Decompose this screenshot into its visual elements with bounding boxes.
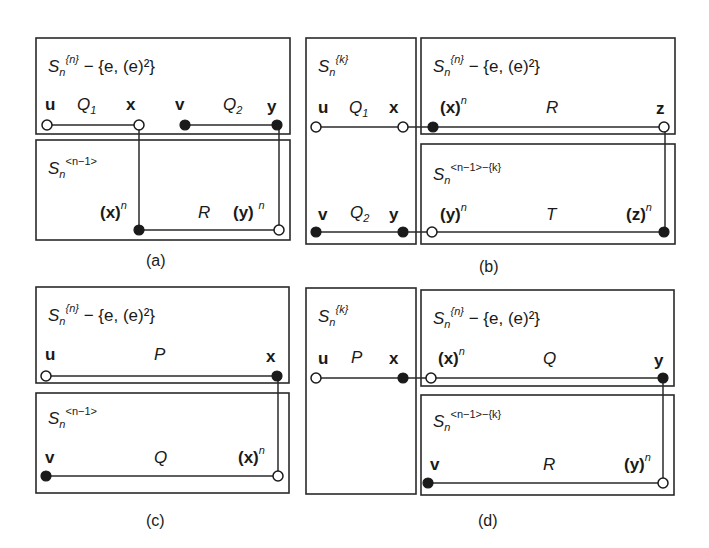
set-symbol: S (433, 57, 444, 76)
panel-a-label-v: v (175, 96, 184, 113)
panel-b-node-v (311, 227, 321, 237)
set-superscript: {n} (65, 302, 78, 314)
set-superscript: <n−1>−{k} (450, 408, 501, 420)
set-symbol: S (318, 57, 329, 76)
set-superscript: <n−1> (65, 405, 97, 417)
set-subscript: n (444, 174, 450, 186)
panel-b-node-y (398, 227, 408, 237)
panel-b-label-q2: Q2 (350, 204, 369, 221)
set-superscript: {n} (65, 53, 78, 65)
panel-b-label-yn: (y)n (440, 206, 467, 223)
path-subscript: 1 (90, 104, 96, 116)
panel-a-node-u (42, 120, 52, 130)
panel-b-node-u (311, 122, 321, 132)
node-name: (x) (238, 448, 259, 467)
panel-b-bottom-set-label: Sn<n−1>−{k} (433, 166, 501, 183)
set-exclusion: − {e, (e)²} (84, 57, 155, 76)
panel-a-label-r: R (198, 204, 210, 221)
path-subscript: 1 (362, 107, 368, 119)
path-name: Q (77, 95, 90, 114)
panel-b-node-x (398, 122, 408, 132)
node-superscript: n (461, 94, 467, 106)
panel-b-label-xn: (x)n (440, 99, 467, 116)
node-superscript: n (259, 199, 265, 211)
panel-b-label-r: R (546, 99, 558, 116)
panel-d-label-q: Q (543, 350, 556, 367)
panel-a-label-x: x (126, 96, 135, 113)
set-symbol: S (48, 159, 59, 178)
path-name: Q (223, 95, 236, 114)
panel-b-label-u: u (318, 99, 328, 116)
panel-d-label-xn: (x)n (438, 350, 465, 367)
panel-d-label-r: R (543, 456, 555, 473)
panel-b-label-v: v (318, 206, 327, 223)
panel-a-label-q2: Q2 (223, 96, 242, 113)
set-subscript: n (444, 318, 450, 330)
path-name: Q (349, 98, 362, 117)
set-subscript: n (444, 421, 450, 433)
panel-b-node-z (659, 122, 669, 132)
node-name: (y) (440, 205, 461, 224)
panel-c-caption: (c) (146, 512, 165, 530)
set-subscript: n (59, 418, 65, 430)
node-superscript: n (645, 451, 651, 463)
set-symbol: S (433, 412, 444, 431)
panel-a-node-v (180, 120, 190, 130)
panel-a-node-yn (274, 225, 284, 235)
panel-c-label-v: v (45, 449, 54, 466)
set-superscript: {k} (335, 303, 348, 315)
node-name: (z) (626, 205, 646, 224)
set-exclusion: − {e, (e)²} (84, 306, 155, 325)
panel-b-bottom-box (421, 144, 675, 244)
path-subscript: 2 (363, 212, 369, 224)
panel-d-left-set-label: Sn{k} (318, 308, 348, 325)
panel-c-label-p: P (154, 346, 165, 363)
set-exclusion: − {e, (e)²} (469, 57, 540, 76)
panel-a-label-yn: (y) n (233, 204, 265, 221)
panel-d-node-v (423, 478, 433, 488)
panel-d-label-x: x (389, 350, 398, 367)
panel-d-top-set-label: Sn{n} − {e, (e)²} (433, 310, 540, 327)
node-name: (x) (100, 203, 121, 222)
panel-b-label-q1: Q1 (349, 99, 368, 116)
panel-b-label-y: y (389, 206, 398, 223)
panel-b-label-z: z (656, 100, 665, 117)
panel-d-node-yn (658, 478, 668, 488)
panel-d-label-u: u (318, 350, 328, 367)
panel-a-top-set-label: Sn{n} − {e, (e)²} (48, 58, 155, 75)
panel-b-node-xn (428, 122, 438, 132)
panel-d-caption: (d) (478, 512, 498, 530)
panel-d-bottom-set-label: Sn<n−1>−{k} (433, 413, 501, 430)
path-name: Q (350, 203, 363, 222)
set-symbol: S (48, 409, 59, 428)
set-symbol: S (318, 307, 329, 326)
set-symbol: S (433, 309, 444, 328)
panel-d-node-xn (426, 373, 436, 383)
panel-c-top-set-label: Sn{n} − {e, (e)²} (48, 307, 155, 324)
panel-c-label-u: u (45, 346, 55, 363)
panel-b-left-set-label: Sn{k} (318, 58, 348, 75)
path-subscript: 2 (236, 104, 242, 116)
node-name: (y) (233, 203, 254, 222)
panel-a-node-y (272, 120, 282, 130)
node-superscript: n (461, 201, 467, 213)
panel-c-label-x: x (266, 348, 275, 365)
set-subscript: n (329, 66, 335, 78)
panel-a-label-u: u (45, 96, 55, 113)
set-subscript: n (59, 168, 65, 180)
node-superscript: n (459, 345, 465, 357)
set-superscript: {n} (450, 305, 463, 317)
panel-d-label-y: y (654, 352, 663, 369)
set-symbol: S (48, 306, 59, 325)
panel-a-node-x (134, 120, 144, 130)
panel-b-node-zn (659, 227, 669, 237)
set-subscript: n (59, 315, 65, 327)
node-name: (x) (440, 98, 461, 117)
panel-a-label-q1: Q1 (77, 96, 96, 113)
panel-d-label-v: v (430, 456, 439, 473)
panel-c-bottom-set-label: Sn<n−1> (48, 410, 97, 427)
panel-a-node-xn (134, 225, 144, 235)
panel-d-node-x (398, 373, 408, 383)
node-name: (x) (438, 349, 459, 368)
panel-a-bottom-set-label: Sn<n−1> (48, 160, 97, 177)
